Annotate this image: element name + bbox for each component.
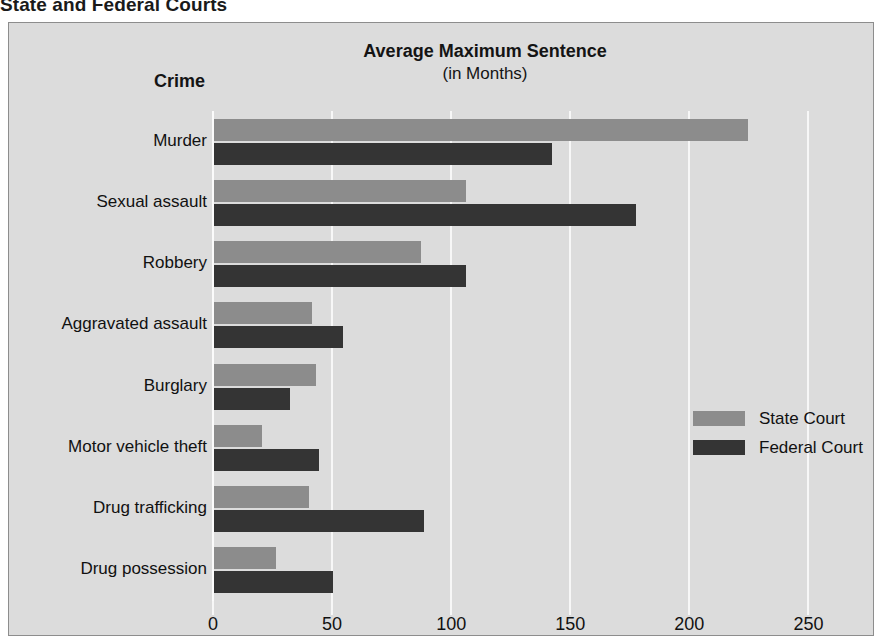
category-label: Drug possession [17, 559, 207, 579]
bar-group [212, 172, 867, 233]
x-tick-label: 250 [793, 614, 823, 635]
x-tick-label: 50 [322, 614, 342, 635]
x-tick-label: 0 [208, 614, 218, 635]
chart-panel: Crime Average Maximum Sentence (in Month… [8, 22, 874, 636]
bar-state-court [214, 364, 316, 386]
chart-page: State and Federal Courts Crime Average M… [0, 0, 879, 639]
legend-swatch-icon [693, 411, 745, 426]
legend-label: Federal Court [759, 438, 863, 458]
bar-state-court [214, 241, 421, 263]
x-tick-line [807, 601, 809, 615]
bar-group [212, 295, 867, 356]
x-tick-line [331, 601, 333, 615]
category-label: Burglary [17, 376, 207, 396]
bar-state-court [214, 547, 276, 569]
category-axis-labels: MurderSexual assaultRobberyAggravated as… [17, 111, 207, 601]
bar-federal-court [214, 388, 290, 410]
bar-state-court [214, 425, 262, 447]
chart-title: Average Maximum Sentence (in Months) [205, 40, 765, 85]
category-label: Motor vehicle theft [17, 437, 207, 457]
bar-group [212, 111, 867, 172]
category-label: Drug trafficking [17, 498, 207, 518]
legend-item: State Court [693, 406, 873, 431]
x-tick-label: 100 [436, 614, 466, 635]
x-tick-line [450, 601, 452, 615]
bar-federal-court [214, 265, 466, 287]
bar-group [212, 479, 867, 540]
x-tick-label: 150 [555, 614, 585, 635]
bar-group [212, 234, 867, 295]
x-axis: 050100150200250 [212, 601, 867, 637]
x-tick-line [688, 601, 690, 615]
x-tick-line [212, 601, 214, 615]
x-tick-label: 200 [674, 614, 704, 635]
category-label: Murder [17, 131, 207, 151]
category-label: Aggravated assault [17, 314, 207, 334]
legend: State CourtFederal Court [693, 406, 873, 464]
bar-federal-court [214, 204, 636, 226]
x-tick-line [569, 601, 571, 615]
chart-title-line1: Average Maximum Sentence [205, 40, 765, 63]
category-label: Robbery [17, 253, 207, 273]
bar-state-court [214, 180, 466, 202]
bar-federal-court [214, 326, 343, 348]
legend-swatch-icon [693, 440, 745, 455]
legend-item: Federal Court [693, 435, 873, 460]
bar-state-court [214, 302, 312, 324]
category-label: Sexual assault [17, 192, 207, 212]
chart-title-line2: (in Months) [205, 63, 765, 85]
bar-state-court [214, 486, 309, 508]
bar-federal-court [214, 510, 424, 532]
crime-column-header: Crime [9, 71, 205, 92]
bar-group [212, 540, 867, 601]
bar-federal-court [214, 143, 552, 165]
bar-federal-court [214, 571, 333, 593]
bar-federal-court [214, 449, 319, 471]
bar-state-court [214, 119, 748, 141]
plot-area [212, 111, 867, 601]
legend-label: State Court [759, 409, 845, 429]
page-title: State and Federal Courts [0, 0, 330, 18]
